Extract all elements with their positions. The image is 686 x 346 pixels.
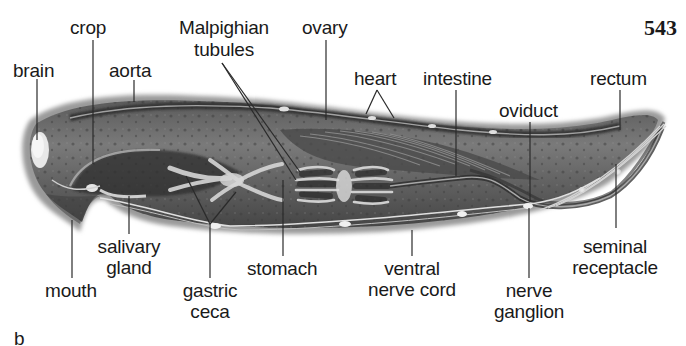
panel-letter: b bbox=[14, 328, 25, 346]
label-heart: heart bbox=[354, 68, 396, 89]
label-mouth: mouth bbox=[45, 280, 97, 301]
label-aorta: aorta bbox=[109, 60, 151, 81]
label-crop: crop bbox=[70, 17, 106, 38]
anatomy-figure: crop Malpighian tubules ovary 543 brain … bbox=[0, 0, 686, 346]
label-intestine: intestine bbox=[423, 68, 492, 89]
label-seminal-receptacle: seminal receptacle bbox=[566, 236, 664, 278]
label-oviduct: oviduct bbox=[499, 100, 558, 121]
label-gastric-ceca: gastric ceca bbox=[178, 280, 242, 322]
label-salivary-gland: salivary gland bbox=[94, 236, 164, 278]
page-number: 543 bbox=[644, 15, 677, 41]
label-brain: brain bbox=[13, 60, 54, 81]
label-malpighian-tubules: Malpighian tubules bbox=[172, 17, 276, 60]
label-ovary: ovary bbox=[302, 17, 347, 38]
label-rectum: rectum bbox=[590, 68, 647, 89]
label-ventral-nerve-cord: ventral nerve cord bbox=[362, 258, 462, 300]
brain-illustration bbox=[31, 132, 49, 168]
insect-body-illustration bbox=[0, 0, 686, 346]
label-nerve-ganglion: nerve ganglion bbox=[490, 280, 568, 322]
label-stomach: stomach bbox=[247, 258, 317, 279]
